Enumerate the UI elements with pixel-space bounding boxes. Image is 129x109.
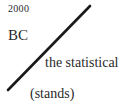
diagonal-slash-line bbox=[0, 0, 129, 109]
